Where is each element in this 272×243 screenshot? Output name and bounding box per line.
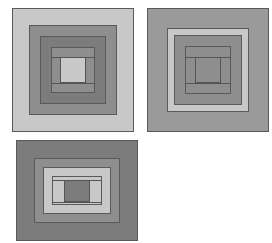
quilt-figure-canvas [0,0,272,243]
quilt-block-2 [147,8,269,132]
quilt-block-3 [16,140,138,241]
block-3-divider-bottom [52,202,102,203]
block-1-divider-bottom [51,83,95,84]
block-1-center-square [60,57,86,83]
block-3-center-square [64,180,90,202]
quilt-block-1 [12,8,134,132]
block-2-center-square [195,57,221,83]
block-2-divider-bottom [185,83,231,84]
